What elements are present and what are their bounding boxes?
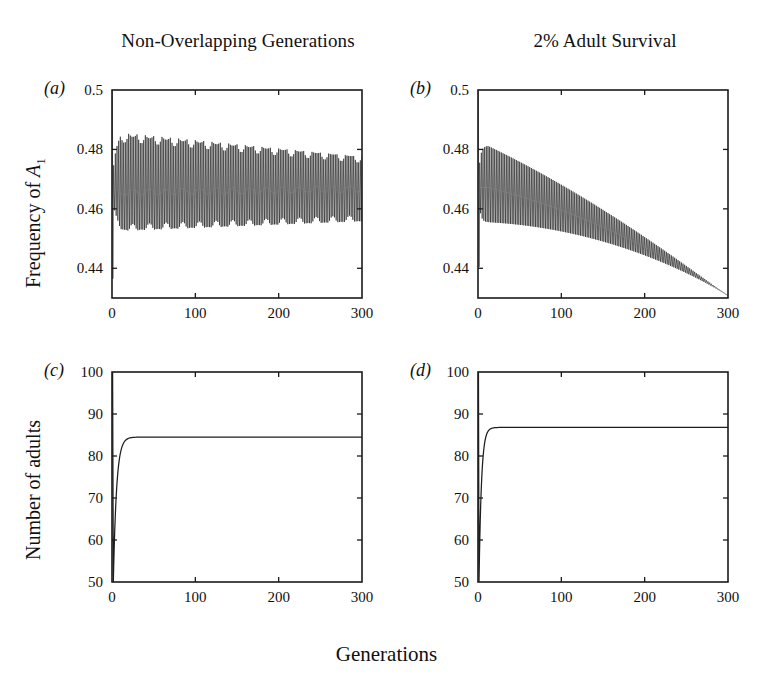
- x-tick-label: 100: [550, 305, 573, 321]
- column-title-right: 2% Adult Survival: [460, 30, 750, 52]
- data-trace: [112, 90, 362, 279]
- panel-label-c: (c): [44, 360, 64, 381]
- y-tick-label: 70: [454, 490, 469, 506]
- y-tick-label: 50: [454, 574, 469, 590]
- plot-frame: [112, 90, 362, 298]
- y-tick-label: 60: [88, 532, 103, 548]
- x-tick-label: 300: [717, 589, 740, 605]
- y-axis-title-top-symbol: A: [22, 165, 44, 177]
- column-title-left: Non-Overlapping Generations: [78, 30, 398, 52]
- y-tick-label: 100: [81, 364, 104, 380]
- x-tick-label: 200: [267, 305, 290, 321]
- y-tick-label: 80: [88, 448, 103, 464]
- y-tick-label: 0.44: [443, 260, 470, 276]
- y-tick-label: 90: [88, 406, 103, 422]
- x-tick-label: 0: [108, 305, 116, 321]
- y-tick-label: 0.5: [84, 82, 103, 98]
- x-tick-label: 200: [267, 589, 290, 605]
- panel-label-d: (d): [410, 360, 431, 381]
- y-tick-label: 0.44: [77, 260, 104, 276]
- y-tick-label: 100: [447, 364, 470, 380]
- plot-surface: 01002003000.440.460.480.501002003000.440…: [0, 0, 773, 687]
- y-tick-label: 0.48: [77, 141, 103, 157]
- data-trace: [478, 90, 728, 296]
- data-trace: [478, 372, 728, 582]
- y-tick-label: 0.46: [443, 201, 470, 217]
- plot-frame: [478, 372, 728, 582]
- y-axis-title-bottom: Number of adults: [22, 420, 45, 560]
- data-trace: [112, 372, 362, 582]
- chart-panel-b: 01002003000.440.460.480.5: [443, 82, 740, 321]
- x-tick-label: 0: [108, 589, 116, 605]
- x-tick-label: 300: [717, 305, 740, 321]
- y-tick-label: 90: [454, 406, 469, 422]
- chart-panel-d: 01002003005060708090100: [447, 364, 740, 605]
- y-axis-title-top-prefix: Frequency of: [22, 177, 44, 288]
- chart-panel-c: 01002003005060708090100: [81, 364, 374, 605]
- x-tick-label: 200: [633, 589, 656, 605]
- plot-frame: [112, 372, 362, 582]
- y-tick-label: 80: [454, 448, 469, 464]
- x-tick-label: 300: [351, 589, 374, 605]
- y-tick-label: 0.46: [77, 201, 104, 217]
- chart-panel-a: 01002003000.440.460.480.5: [77, 82, 374, 321]
- x-tick-label: 100: [184, 589, 207, 605]
- y-tick-label: 0.48: [443, 141, 469, 157]
- y-axis-title-top-subscript: 1: [33, 158, 48, 165]
- x-axis-title: Generations: [0, 642, 773, 667]
- panel-label-a: (a): [44, 78, 65, 99]
- x-tick-label: 100: [184, 305, 207, 321]
- x-tick-label: 100: [550, 589, 573, 605]
- panel-label-b: (b): [410, 78, 431, 99]
- figure-root: Non-Overlapping Generations 2% Adult Sur…: [0, 0, 773, 687]
- x-tick-label: 0: [474, 589, 482, 605]
- x-tick-label: 200: [633, 305, 656, 321]
- y-tick-label: 60: [454, 532, 469, 548]
- y-tick-label: 50: [88, 574, 103, 590]
- y-tick-label: 0.5: [450, 82, 469, 98]
- x-tick-label: 0: [474, 305, 482, 321]
- plot-frame: [478, 90, 728, 298]
- x-tick-label: 300: [351, 305, 374, 321]
- y-axis-title-top: Frequency of A1: [22, 158, 49, 288]
- y-tick-label: 70: [88, 490, 103, 506]
